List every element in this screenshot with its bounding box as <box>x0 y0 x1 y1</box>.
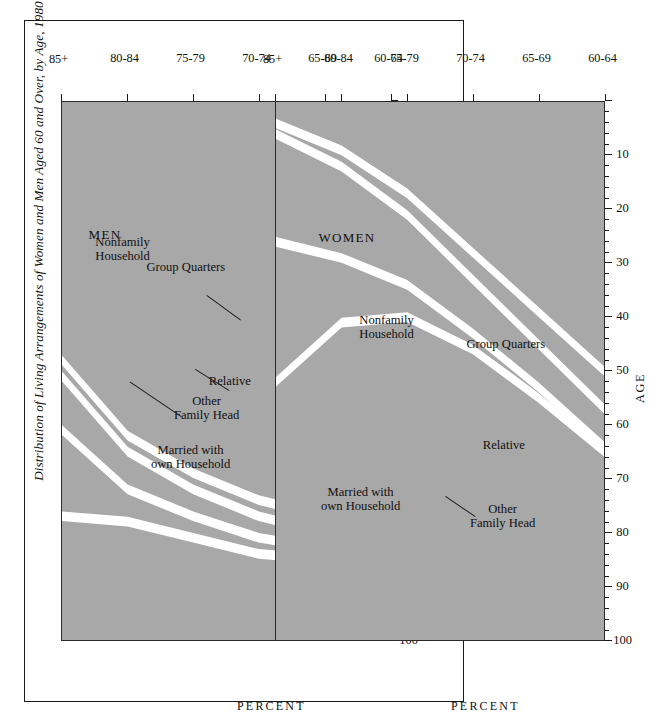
percent-tick-label: 80 <box>615 513 630 553</box>
age-tick-label: 85+ <box>51 29 66 89</box>
percent-tick <box>605 219 609 220</box>
axis-title-age-women: AGE <box>633 373 648 403</box>
age-tick-label: 75-79 <box>397 29 412 89</box>
band-label-group-quarters-women: Group Quarters <box>456 338 556 352</box>
percent-tick <box>605 155 612 156</box>
percent-tick <box>605 392 609 393</box>
percent-tick <box>605 576 609 577</box>
figure-title: Distribution of Living Arrangements of W… <box>31 1 47 481</box>
band-label-married-women: Married with own Household <box>306 486 416 513</box>
percent-tick-label: 100 <box>615 621 630 661</box>
percent-tick-label: 10 <box>615 135 630 175</box>
percent-tick-label: 20 <box>615 189 630 229</box>
percent-tick <box>605 295 609 296</box>
percent-tick-label: 70 <box>615 459 630 499</box>
percent-tick <box>605 187 609 188</box>
stacked-area-women <box>276 102 604 640</box>
percent-tick <box>605 198 609 199</box>
percent-tick <box>605 414 609 415</box>
age-tick <box>407 94 408 101</box>
percent-tick <box>605 425 612 426</box>
percent-tick <box>605 165 609 166</box>
figure-frame: Distribution of Living Arrangements of W… <box>24 20 464 702</box>
percent-tick <box>605 468 609 469</box>
band-label-married-men: Married with own Household <box>136 444 246 471</box>
percent-tick <box>605 489 609 490</box>
percent-tick <box>605 446 609 447</box>
percent-tick <box>605 241 609 242</box>
percent-tick <box>605 522 609 523</box>
percent-tick <box>605 554 609 555</box>
age-tick <box>61 94 62 101</box>
age-tick-label: 75-79 <box>183 29 198 89</box>
age-tick <box>473 94 474 101</box>
percent-tick <box>605 273 609 274</box>
percent-tick <box>605 641 612 642</box>
age-tick <box>605 94 606 101</box>
age-tick <box>275 94 276 101</box>
age-tick-label: 85+ <box>265 29 280 89</box>
percent-tick <box>605 371 612 372</box>
age-tick <box>539 94 540 101</box>
band-label-relative-men: Relative <box>195 375 265 389</box>
percent-tick <box>605 327 609 328</box>
percent-tick <box>605 209 612 210</box>
axis-title-percent-women: PERCENT <box>451 699 520 714</box>
percent-tick-label: 40 <box>615 297 630 337</box>
age-tick-label: 70-74 <box>249 29 264 89</box>
percent-tick <box>605 500 609 501</box>
band-label-other-family-head-women: Other Family Head <box>457 503 549 530</box>
percent-tick <box>605 338 609 339</box>
percent-tick-label: 30 <box>615 243 630 283</box>
percent-tick <box>605 122 609 123</box>
percent-tick <box>605 230 609 231</box>
percent-tick <box>605 381 609 382</box>
percent-tick <box>605 317 612 318</box>
percent-tick <box>605 349 609 350</box>
percent-tick <box>605 619 609 620</box>
age-tick-label: 65-69 <box>529 29 544 89</box>
percent-tick-label: 60 <box>615 405 630 445</box>
age-tick <box>341 94 342 101</box>
percent-tick <box>605 263 612 264</box>
percent-tick <box>605 608 609 609</box>
percent-tick <box>605 252 609 253</box>
percent-tick-label: 50 <box>615 351 630 391</box>
band-label-other-family-head-men: Other Family Head <box>161 395 253 422</box>
percent-tick-label: 90 <box>615 567 630 607</box>
panel-label-women: WOMEN <box>318 230 375 246</box>
percent-tick <box>605 101 612 102</box>
band-label-nonfamily-women: Nonfamily Household <box>342 314 432 341</box>
percent-tick <box>605 587 612 588</box>
age-tick <box>259 94 260 101</box>
plot-area-women <box>275 101 605 641</box>
percent-tick <box>605 306 609 307</box>
percent-tick <box>605 284 609 285</box>
percent-tick <box>605 111 609 112</box>
percent-tick <box>605 403 609 404</box>
percent-tick <box>605 543 609 544</box>
age-tick-label: 60-64 <box>595 29 610 89</box>
percent-tick <box>605 133 609 134</box>
age-tick-label: 70-74 <box>463 29 478 89</box>
percent-tick <box>605 565 609 566</box>
band-label-group-quarters-men: Group Quarters <box>136 261 236 275</box>
age-tick <box>127 94 128 101</box>
percent-tick <box>605 511 609 512</box>
percent-tick <box>605 457 609 458</box>
percent-tick <box>605 144 609 145</box>
age-tick-label: 80-84 <box>117 29 132 89</box>
percent-tick <box>605 479 612 480</box>
percent-tick <box>605 435 609 436</box>
band-label-relative-women: Relative <box>469 439 539 453</box>
percent-tick <box>605 533 612 534</box>
percent-tick <box>605 360 609 361</box>
percent-tick <box>605 176 609 177</box>
percent-tick <box>605 630 609 631</box>
age-tick-label: 80-84 <box>331 29 346 89</box>
age-tick <box>193 94 194 101</box>
panel-women: 100908070605040302010 60-6465-6970-7475-… <box>261 83 649 703</box>
percent-tick <box>605 597 609 598</box>
